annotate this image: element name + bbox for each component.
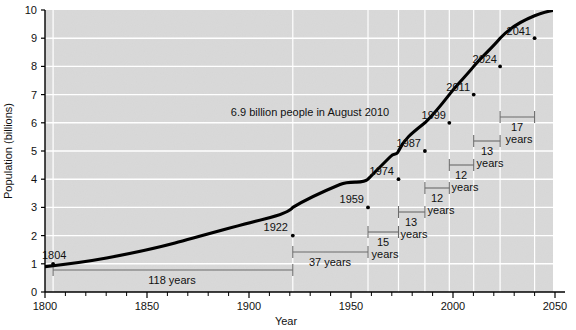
y-tick-1: 1 [31, 258, 37, 270]
interval-label-15-line1: 15 [377, 236, 389, 248]
milestone-label-2041: 2041 [507, 25, 531, 37]
marker-1922 [291, 234, 295, 238]
marker-1999 [447, 121, 451, 125]
interval-label-13b-line1: 13 [481, 145, 493, 157]
x-tick-2000: 2000 [441, 300, 465, 312]
interval-label-12a-line2: years [428, 204, 455, 216]
y-tick-7: 7 [31, 89, 37, 101]
population-growth-chart: 118 years 37 years 15 years 13 years 12 … [0, 0, 576, 330]
x-tick-1800: 1800 [33, 300, 57, 312]
y-tick-2: 2 [31, 230, 37, 242]
interval-label-13a-line1: 13 [405, 216, 417, 228]
current-population-note: 6.9 billion people in August 2010 [231, 106, 389, 118]
x-tick-1950: 1950 [339, 300, 363, 312]
interval-label-13a-line2: years [401, 228, 428, 240]
marker-2011 [472, 93, 476, 97]
y-tick-3: 3 [31, 201, 37, 213]
x-axis-major-ticks [45, 292, 555, 298]
x-tick-1900: 1900 [237, 300, 261, 312]
x-tick-2050: 2050 [543, 300, 567, 312]
y-tick-8: 8 [31, 60, 37, 72]
interval-label-15-line2: years [372, 248, 399, 260]
marker-1804 [51, 262, 55, 266]
population-growth-figure: 118 years 37 years 15 years 13 years 12 … [0, 0, 576, 330]
interval-label-37: 37 years [309, 256, 352, 268]
x-axis-tick-labels: 1800 1850 1900 1950 2000 2050 [33, 300, 567, 312]
marker-1974 [397, 177, 401, 181]
milestone-label-1959: 1959 [340, 193, 364, 205]
x-tick-1850: 1850 [135, 300, 159, 312]
milestone-label-1987: 1987 [397, 137, 421, 149]
y-tick-6: 6 [31, 117, 37, 129]
interval-label-12a-line1: 12 [431, 192, 443, 204]
marker-2041 [533, 36, 537, 40]
interval-label-118: 118 years [148, 274, 196, 286]
interval-label-12b-line2: years [452, 181, 479, 193]
interval-label-13b-line2: years [477, 157, 504, 169]
interval-label-12b-line1: 12 [455, 169, 467, 181]
milestone-label-2024: 2024 [473, 53, 497, 65]
milestone-label-2011: 2011 [446, 81, 470, 93]
y-tick-10: 10 [25, 4, 37, 16]
milestone-label-1999: 1999 [422, 109, 446, 121]
y-tick-9: 9 [31, 32, 37, 44]
interval-label-17-line2: years [506, 133, 533, 145]
y-tick-4: 4 [31, 173, 37, 185]
milestone-label-1974: 1974 [370, 165, 394, 177]
x-axis-title: Year [275, 315, 298, 327]
marker-1959 [366, 206, 370, 210]
y-tick-5: 5 [31, 145, 37, 157]
y-tick-0: 0 [31, 286, 37, 298]
y-axis-title: Population (billions) [2, 103, 14, 199]
marker-1987 [423, 149, 427, 153]
interval-label-17-line1: 17 [511, 121, 523, 133]
y-axis-tick-labels: 10 9 8 7 6 5 4 3 2 1 0 [25, 4, 37, 298]
marker-2024 [498, 65, 502, 69]
milestone-label-1922: 1922 [264, 221, 288, 233]
